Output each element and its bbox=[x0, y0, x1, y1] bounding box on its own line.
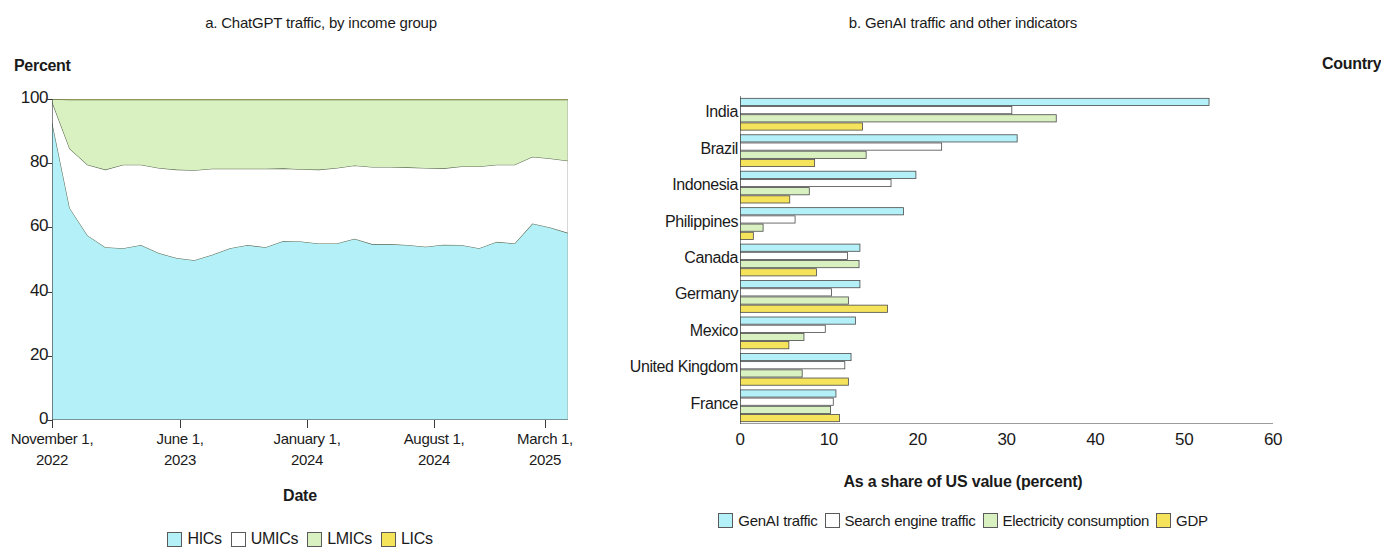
legend-swatch-icon bbox=[381, 532, 396, 547]
panel-b-category-label: Philippines bbox=[618, 213, 738, 231]
panel-b-category-label: Indonesia bbox=[618, 176, 738, 194]
panel-a-x-tick-line2: 2025 bbox=[485, 449, 605, 470]
panel-a-x-tick-line1: August 1, bbox=[374, 428, 494, 449]
legend-label: GDP bbox=[1176, 512, 1208, 529]
legend-item-umics[interactable]: UMICs bbox=[231, 530, 298, 548]
panel-a-legend: HICsUMICsLMICsLICs bbox=[0, 530, 600, 548]
panel-b-category-label: Germany bbox=[618, 285, 738, 303]
panel-a-x-tick-line1: January 1, bbox=[247, 428, 367, 449]
panel-b-x-axis-label: As a share of US value (percent) bbox=[642, 473, 1284, 491]
legend-item-lmics[interactable]: LMICs bbox=[307, 530, 372, 548]
panel-b-x-tick: 40 bbox=[1065, 430, 1125, 450]
panel-a-title: a. ChatGPT traffic, by income group bbox=[0, 14, 642, 31]
panel-a-y-tick: 20 bbox=[4, 345, 48, 365]
legend-label: LICs bbox=[401, 530, 433, 548]
panel-a-x-tick: August 1,2024 bbox=[374, 428, 494, 470]
legend-label: HICs bbox=[187, 530, 221, 548]
panel-a-x-tick: November 1,2022 bbox=[0, 428, 112, 470]
panel-a-y-tick: 60 bbox=[4, 216, 48, 236]
panel-a-x-tick-line2: 2022 bbox=[0, 449, 112, 470]
panel-a-y-tick: 0 bbox=[4, 409, 48, 429]
panel-b-category-label: India bbox=[618, 103, 738, 121]
panel-chatgpt-traffic: a. ChatGPT traffic, by income group Perc… bbox=[0, 0, 642, 559]
panel-a-x-tick-mark bbox=[545, 420, 546, 428]
panel-a-x-tick: June 1,2023 bbox=[120, 428, 240, 470]
legend-swatch-icon bbox=[983, 513, 998, 528]
panel-b-legend: GenAI trafficSearch engine trafficElectr… bbox=[642, 512, 1284, 529]
panel-b-x-tick: 50 bbox=[1154, 430, 1214, 450]
legend-label: Electricity consumption bbox=[1003, 512, 1150, 529]
panel-a-x-tick-mark bbox=[52, 420, 53, 428]
panel-a-x-tick-mark bbox=[434, 420, 435, 428]
panel-a-x-tick-line1: March 1, bbox=[485, 428, 605, 449]
panel-a-x-axis-label: Date bbox=[0, 487, 600, 505]
legend-swatch-icon bbox=[718, 513, 733, 528]
panel-b-category-labels: IndiaBrazilIndonesiaPhilippinesCanadaGer… bbox=[614, 96, 738, 424]
panel-b-title: b. GenAI traffic and other indicators bbox=[642, 14, 1284, 31]
legend-item-gdp[interactable]: GDP bbox=[1156, 512, 1208, 529]
panel-b-category-label: United Kingdom bbox=[618, 358, 738, 376]
panel-a-x-tick-mark bbox=[180, 420, 181, 428]
panel-b-category-label: Mexico bbox=[618, 322, 738, 340]
panel-b-category-label: Brazil bbox=[618, 140, 738, 158]
panel-b-x-tick: 60 bbox=[1243, 430, 1303, 450]
panel-a-y-axis: 100806040200 bbox=[0, 99, 48, 420]
stacked-area-chart bbox=[52, 99, 568, 420]
legend-label: LMICs bbox=[327, 530, 372, 548]
panel-a-x-tick-line2: 2024 bbox=[374, 449, 494, 470]
panel-b-category-label: Canada bbox=[618, 249, 738, 267]
panel-a-y-tick: 100 bbox=[4, 88, 48, 108]
panel-b-x-tick: 20 bbox=[888, 430, 948, 450]
legend-swatch-icon bbox=[231, 532, 246, 547]
panel-a-y-tick: 80 bbox=[4, 152, 48, 172]
panel-b-plot-area bbox=[740, 96, 1273, 424]
panel-a-plot-area bbox=[52, 99, 568, 420]
panel-a-y-axis-label: Percent bbox=[14, 57, 71, 75]
legend-swatch-icon bbox=[1156, 513, 1171, 528]
panel-b-y-axis-label: Country bbox=[1322, 55, 1381, 73]
panel-a-y-tick: 40 bbox=[4, 281, 48, 301]
legend-label: GenAI traffic bbox=[738, 512, 817, 529]
legend-item-lics[interactable]: LICs bbox=[381, 530, 433, 548]
legend-swatch-icon bbox=[167, 532, 182, 547]
grouped-bar-chart bbox=[740, 96, 1273, 424]
legend-swatch-icon bbox=[825, 513, 840, 528]
panel-a-x-tick-line2: 2024 bbox=[247, 449, 367, 470]
panel-b-category-label: France bbox=[618, 395, 738, 413]
legend-swatch-icon bbox=[307, 532, 322, 547]
legend-item-hics[interactable]: HICs bbox=[167, 530, 221, 548]
legend-item-search-engine-traffic[interactable]: Search engine traffic bbox=[825, 512, 976, 529]
panel-a-x-tick: March 1,2025 bbox=[485, 428, 605, 470]
panel-a-x-tick: January 1,2024 bbox=[247, 428, 367, 470]
panel-a-x-tick-mark bbox=[307, 420, 308, 428]
legend-label: Search engine traffic bbox=[845, 512, 976, 529]
panel-b-x-tick: 30 bbox=[977, 430, 1037, 450]
panel-genai-indicators: b. GenAI traffic and other indicators Co… bbox=[642, 0, 1284, 559]
panel-a-x-tick-line1: June 1, bbox=[120, 428, 240, 449]
panel-b-x-tick: 10 bbox=[799, 430, 859, 450]
legend-item-electricity-consumption[interactable]: Electricity consumption bbox=[983, 512, 1150, 529]
legend-item-genai-traffic[interactable]: GenAI traffic bbox=[718, 512, 817, 529]
legend-label: UMICs bbox=[251, 530, 298, 548]
panel-a-x-tick-line1: November 1, bbox=[0, 428, 112, 449]
panel-a-x-tick-line2: 2023 bbox=[120, 449, 240, 470]
panel-b-x-tick: 0 bbox=[710, 430, 770, 450]
